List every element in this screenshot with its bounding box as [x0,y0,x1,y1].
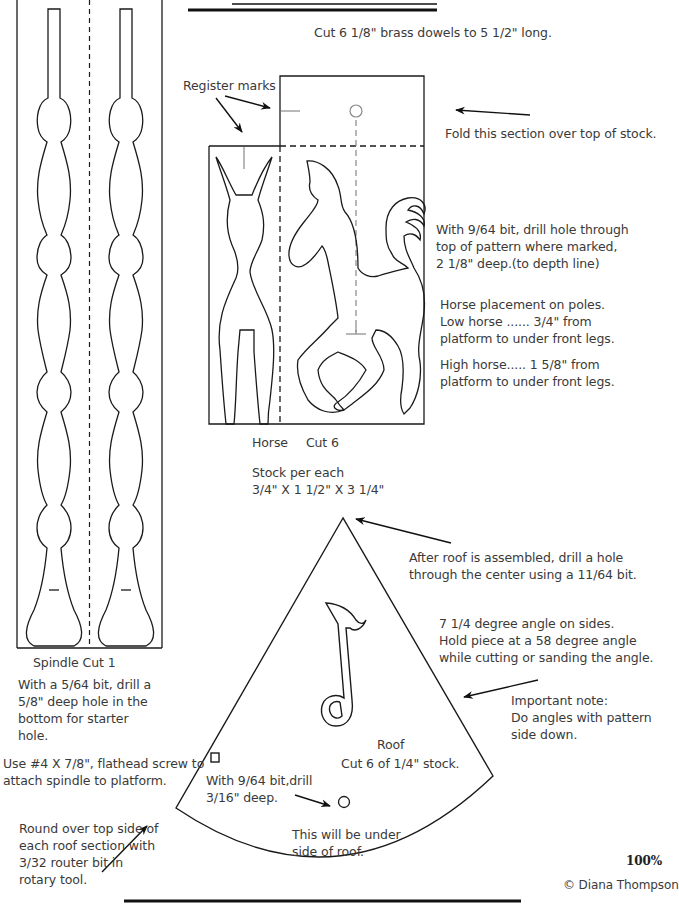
register-marks-label: Register marks [183,77,276,94]
music-note-cutout [322,603,366,726]
roof-assembly-note: After roof is assembled, drill a hole th… [409,549,637,583]
fold-note: Fold this section over top of stock. [445,125,656,142]
horse-drill-note: With 9/64 bit, drill hole through top of… [436,221,629,272]
roof-cut-note: Cut 6 of 1/4" stock. [341,755,459,772]
underside-note: This will be under side of roof. [292,826,401,860]
pilot-mark [211,753,219,762]
horse-caption: HorseCut 6 [252,434,339,451]
spindle-drill-note: With a 5/64 bit, drill a 5/8" deep hole … [18,676,151,744]
high-horse-note: High horse..... 1 5/8" from platform to … [440,356,615,390]
roof-label: Roof [377,736,404,753]
spindle-caption: Spindle Cut 1 [33,654,116,671]
important-note: Important note: Do angles with pattern s… [511,692,652,743]
horse-side-view [289,161,425,414]
roundover-note: Round over top side of each roof section… [19,820,158,888]
header-rules [188,4,437,10]
spindle-left [26,9,81,646]
spindle-pattern [17,0,162,648]
dowel-note: Cut 6 1/8" brass dowels to 5 1/2" long. [314,24,552,41]
horse-placement-note: Horse placement on poles. Low horse ....… [440,296,615,347]
screw-note: Use #4 X 7/8", flathead screw to attach … [3,755,204,789]
scale-label: 100% [626,853,662,870]
horse-pattern [209,76,425,424]
spindle-right [98,9,153,646]
roof-drill-note: With 9/64 bit,drill 3/16" deep. [206,772,312,806]
stock-note: Stock per each 3/4" X 1 1/2" X 3 1/4" [252,464,384,498]
drill-hole-mark [339,797,350,808]
roof-angle-note: 7 1/4 degree angle on sides. Hold piece … [439,615,653,666]
horse-front-view [216,157,274,424]
copyright: © Diana Thompson [563,877,679,894]
